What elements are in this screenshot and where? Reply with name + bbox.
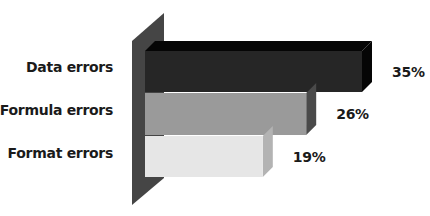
category-label-format-errors: Format errors bbox=[8, 145, 113, 161]
bar-data-errors bbox=[145, 51, 362, 92]
value-label-format-errors: 19% bbox=[293, 149, 326, 165]
bar-formula-errors bbox=[145, 93, 306, 135]
bar-format-errors bbox=[145, 136, 263, 177]
value-label-data-errors: 35% bbox=[392, 64, 425, 80]
bar-top-data-errors bbox=[145, 41, 372, 51]
category-label-data-errors: Data errors bbox=[26, 59, 113, 75]
category-label-formula-errors: Formula errors bbox=[0, 102, 113, 118]
value-label-formula-errors: 26% bbox=[336, 106, 369, 122]
